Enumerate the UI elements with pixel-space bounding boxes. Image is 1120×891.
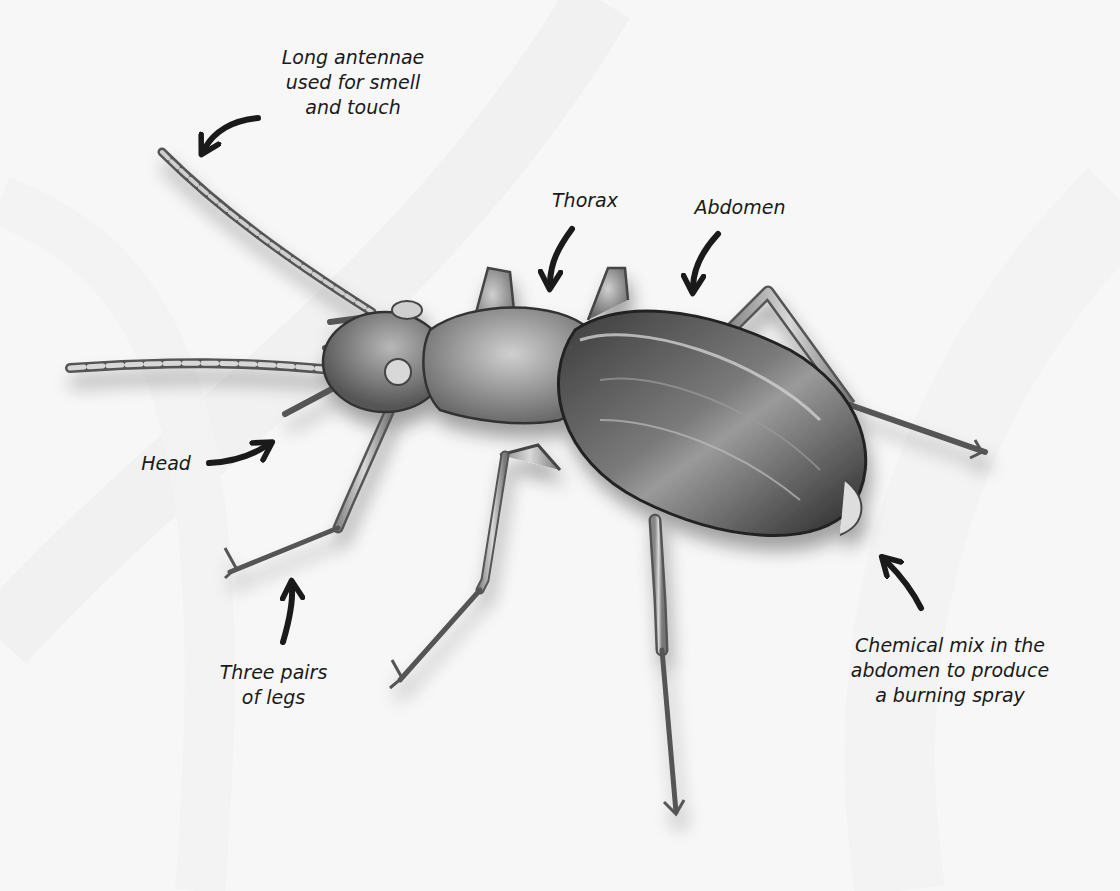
antenna-lower [70, 363, 350, 372]
leg-hind-left [655, 520, 684, 814]
antenna-upper [162, 152, 372, 312]
label-antennae: Long antennae used for smell and touch [258, 45, 448, 120]
beetle-illustration [0, 0, 1120, 891]
arrow-legs-icon [283, 588, 292, 642]
label-legs: Three pairs of legs [196, 660, 351, 710]
arrow-antennae-icon [205, 118, 258, 148]
label-abdomen: Abdomen [680, 195, 800, 220]
background-texture [0, 0, 1120, 891]
arrow-thorax-icon [550, 229, 572, 282]
leg-middle-left [390, 445, 560, 688]
label-chemical-spray: Chemical mix in the abdomen to produce a… [820, 633, 1080, 708]
beetle-abdomen [558, 311, 865, 535]
label-thorax: Thorax [535, 188, 635, 213]
beetle-diagram: Long antennae used for smell and touch T… [0, 0, 1120, 891]
arrow-abdomen-icon [693, 234, 718, 286]
label-head: Head [126, 451, 206, 476]
